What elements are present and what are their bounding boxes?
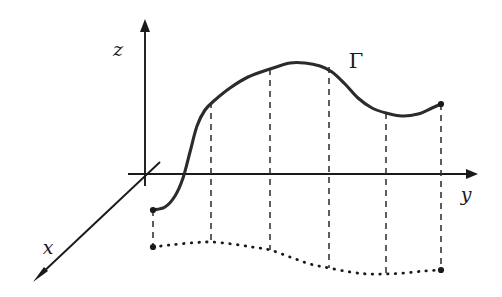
y-axis-label: y xyxy=(460,183,472,205)
x-axis-label: x xyxy=(43,236,54,258)
figure-container: z y x Γ xyxy=(0,0,502,297)
figure-background xyxy=(0,0,502,297)
endpoint-dot-curve-end xyxy=(438,101,444,107)
endpoint-dot-projection-start xyxy=(150,244,156,250)
z-axis-label: z xyxy=(112,38,124,60)
endpoint-dot-curve-start xyxy=(150,207,156,213)
space-curve-diagram: z y x Γ xyxy=(0,0,502,297)
endpoint-dot-projection-end xyxy=(438,267,444,273)
gamma-curve-label: Γ xyxy=(349,49,364,73)
